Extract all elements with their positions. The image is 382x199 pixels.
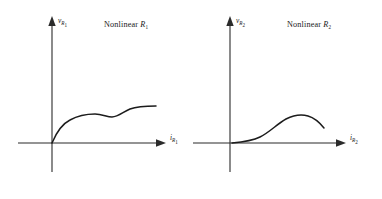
panel-2-characteristic-curve (232, 115, 324, 143)
panel-2-v-sub-index: 2 (242, 22, 245, 28)
panel-1-characteristic-curve (52, 106, 156, 143)
panel-2: vR2 iR2 Nonlinear R2 (193, 16, 358, 172)
panel-2-title-subscript: 2 (328, 24, 331, 30)
i-axis-arrow-icon (156, 139, 166, 146)
panel-1-horizontal-axis (18, 139, 166, 146)
panel-1-vertical-axis (48, 16, 55, 172)
panel-1-i-sub-index: 1 (175, 139, 178, 145)
nonlinear-resistor-figure: vR1 iR1 Nonlinear R1 (0, 0, 382, 199)
panel-2-title: Nonlinear R2 (287, 20, 331, 30)
panel-1-title-subscript: 1 (145, 24, 148, 30)
panel-1-v-sub-index: 1 (64, 22, 67, 28)
panel-2-title-prefix: Nonlinear (287, 20, 321, 29)
panel-1: vR1 iR1 Nonlinear R1 (18, 16, 178, 172)
panel-1-horizontal-axis-label: iR1 (170, 133, 178, 145)
panel-2-vertical-axis (226, 16, 233, 172)
panel-2-horizontal-axis (193, 139, 346, 146)
panel-1-title: Nonlinear R1 (104, 20, 148, 30)
panel-2-horizontal-axis-label: iR2 (350, 133, 358, 145)
panel-1-title-prefix: Nonlinear (104, 20, 138, 29)
i-axis-arrow-icon (336, 139, 346, 146)
panel-2-vertical-axis-label: vR2 (236, 16, 245, 28)
panel-1-vertical-axis-label: vR1 (58, 16, 67, 28)
v-axis-arrow-icon (48, 16, 55, 26)
panel-2-i-sub-index: 2 (355, 139, 358, 145)
v-axis-arrow-icon (226, 16, 233, 26)
